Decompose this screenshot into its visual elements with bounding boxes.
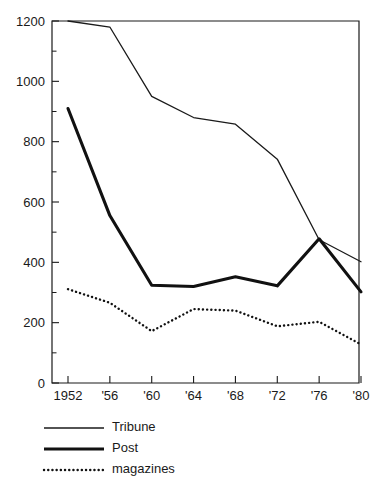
series-line-tribune [68,21,361,262]
x-tick-label: '72 [269,388,286,403]
chart-svg: 020040060080010001200 1952'56'60'64'68'7… [0,0,377,484]
series-line-magazines [68,289,361,344]
data-series-group [68,21,361,344]
y-axis-tick-labels: 020040060080010001200 [16,14,45,391]
y-tick-label: 0 [38,376,45,391]
legend-label-magazines: magazines [112,461,175,476]
x-tick-label: '56 [101,388,118,403]
x-axis-tick-labels: 1952'56'60'64'68'72'76'80 [54,388,370,403]
x-tick-label: 1952 [54,388,83,403]
chart-legend: TribunePostmagazines [44,419,175,476]
x-axis-ticks [68,376,361,383]
y-tick-label: 400 [23,255,45,270]
x-tick-label: '76 [311,388,328,403]
legend-label-post: Post [112,440,138,455]
y-tick-label: 1000 [16,74,45,89]
y-tick-label: 600 [23,195,45,210]
y-tick-label: 800 [23,134,45,149]
x-tick-label: '60 [143,388,160,403]
plot-frame [52,21,359,383]
line-chart-figure: 020040060080010001200 1952'56'60'64'68'7… [0,0,377,484]
series-line-post [68,108,361,291]
x-tick-label: '80 [353,388,370,403]
y-tick-label: 1200 [16,14,45,29]
x-tick-label: '64 [185,388,202,403]
y-axis-ticks [52,21,59,383]
x-tick-label: '68 [227,388,244,403]
y-tick-label: 200 [23,315,45,330]
legend-label-tribune: Tribune [112,419,156,434]
